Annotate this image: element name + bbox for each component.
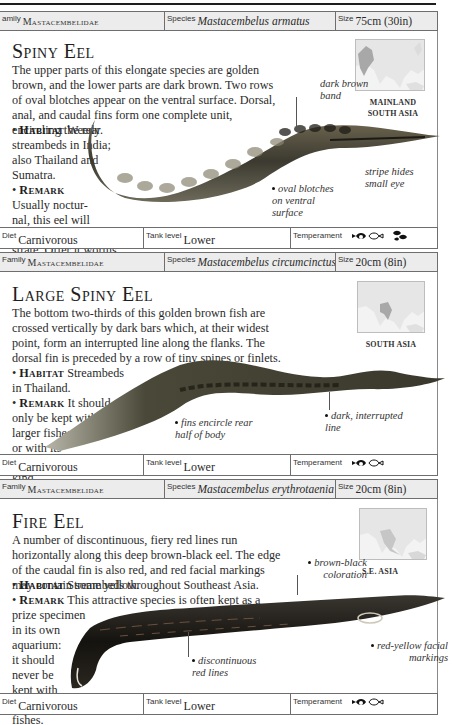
tank-cell: Tank level Lower (143, 228, 290, 248)
tank-value: Lower (184, 233, 215, 248)
temperament-label: Temperament (293, 458, 342, 467)
diet-cell: Diet Carnivorous (0, 455, 143, 475)
habitat-label: Habitat (19, 123, 64, 137)
species-value: Mastacembelus armatus (197, 15, 309, 27)
bullet-dot-icon (175, 421, 178, 424)
species-value: Mastacembelus erythrotaenia (197, 483, 334, 495)
family-cell: Family Mastacembelidae (0, 253, 164, 271)
family-cell: amily Mastacembelidae (0, 12, 164, 30)
family-value: Mastacembelidae (23, 16, 99, 27)
species-label: Species (167, 482, 195, 491)
diet-cell: Diet Carnivorous (0, 694, 143, 714)
tank-value: Lower (184, 699, 215, 714)
region-label: S.E. ASIA (362, 566, 406, 577)
page-top-rule (0, 3, 436, 5)
size-cell: Size 75cm (30in) (335, 12, 437, 30)
species-label: Species (167, 14, 195, 23)
callout-text: oval blotches on ventral surface (272, 183, 334, 218)
size-value: 20cm (8in) (356, 483, 407, 495)
fish-pair-icon (352, 458, 386, 468)
entry-footer-spiny-eel: Diet Carnivorous Tank level Lower Temper… (0, 227, 438, 249)
callout-oval-blotches: oval blotches on ventral surface (272, 183, 342, 219)
family-value: Mastacembelidae (28, 484, 104, 495)
callout-text: fins encircle rear half of body (175, 417, 253, 440)
diet-label: Diet (2, 458, 16, 467)
range-map (357, 281, 425, 333)
size-value: 20cm (8in) (356, 256, 407, 268)
fish-group-icon (392, 230, 408, 242)
species-cell: Species Mastacembelus armatus (164, 12, 335, 30)
diet-cell: Diet Carnivorous (0, 228, 143, 248)
asia-map-icon (358, 282, 425, 333)
bullet-dot-icon (325, 414, 328, 417)
callout-dark-brown-band: dark brown band (320, 78, 390, 102)
diet-label: Diet (2, 231, 16, 240)
callout-facial-markings: red-yellow facial markings (368, 640, 448, 664)
tank-label: Tank level (146, 458, 182, 467)
family-label: amily (2, 14, 21, 23)
asia-map-icon (360, 509, 427, 560)
tank-cell: Tank level Lower (143, 455, 290, 475)
species-title: Fire Eel (12, 510, 84, 533)
callout-red-lines: discontinuous red lines (192, 655, 272, 679)
callout-text: dark, interrupted line (325, 410, 403, 433)
diet-value: Carnivorous (18, 699, 77, 714)
size-cell: Size 20cm (8in) (335, 480, 437, 498)
tank-cell: Tank level Lower (143, 694, 290, 714)
callout-text: red-yellow facial markings (377, 640, 448, 663)
size-label: Size (338, 482, 354, 491)
spiny-eel-illustration (85, 108, 445, 208)
family-cell: Family Mastacembelidae (0, 480, 164, 498)
tank-label: Tank level (146, 697, 182, 706)
diet-value: Carnivorous (18, 460, 77, 475)
species-value: Mastacembelus circumcinctus (197, 256, 335, 268)
tank-label: Tank level (146, 231, 182, 240)
entry-footer-fire-eel: Diet Carnivorous Tank level Lower Temper… (0, 693, 438, 715)
entry-footer-large-spiny-eel: Diet Carnivorous Tank level Lower Temper… (0, 454, 438, 476)
diet-value: Carnivorous (18, 233, 77, 248)
temperament-cell: Temperament (290, 694, 437, 714)
callout-text: dark brown band (320, 78, 368, 101)
callout-leader (329, 392, 330, 410)
callout-stripe-eye: stripe hides small eye (365, 166, 435, 190)
callout-text: brown-black coloration (314, 557, 367, 580)
remark-label: Remark (19, 183, 64, 197)
callout-text: discontinuous red lines (192, 655, 256, 678)
entry-header-fire-eel: Family Mastacembelidae Species Mastacemb… (0, 479, 438, 499)
fish-pair-icon (352, 231, 386, 241)
size-label: Size (338, 14, 354, 23)
temperament-label: Temperament (293, 697, 342, 706)
temperament-cell: Temperament (290, 455, 437, 475)
bullet-dot-icon (272, 187, 275, 190)
species-title: Spiny Eel (12, 40, 95, 63)
remark-label: Remark (19, 593, 64, 607)
callout-leader (296, 97, 297, 129)
family-label: Family (2, 255, 26, 264)
callout-leader (188, 632, 189, 657)
habitat-label: Habitat (19, 578, 64, 592)
tank-value: Lower (184, 460, 215, 475)
family-value: Mastacembelidae (28, 257, 104, 268)
entry-header-spiny-eel: amily Mastacembelidae Species Mastacembe… (0, 11, 438, 31)
fish-pair-icon (352, 697, 386, 707)
size-label: Size (338, 255, 354, 264)
bullet-dot-icon (192, 659, 195, 662)
callout-text: stripe hides small eye (365, 166, 414, 189)
callout-brown-black: brown-black coloration (292, 557, 367, 581)
entry-header-large-spiny-eel: Family Mastacembelidae Species Mastacemb… (0, 252, 438, 272)
bullet-dot-icon (308, 561, 311, 564)
species-label: Species (167, 255, 195, 264)
species-cell: Species Mastacembelus circumcinctus (164, 253, 335, 271)
size-cell: Size 20cm (8in) (335, 253, 437, 271)
remark-text: nal, this eel will (12, 213, 120, 228)
family-label: Family (2, 482, 26, 491)
size-value: 75cm (30in) (356, 15, 413, 27)
callout-leader (297, 575, 298, 595)
species-cell: Species Mastacembelus erythrotaenia (164, 480, 335, 498)
range-map (359, 508, 427, 560)
callout-dark-line: dark, interrupted line (325, 410, 415, 434)
temperament-cell: Temperament (290, 228, 437, 248)
bullet-dot-icon (371, 644, 374, 647)
callout-fins-encircle: fins encircle rear half of body (175, 417, 265, 441)
temperament-label: Temperament (293, 231, 342, 240)
